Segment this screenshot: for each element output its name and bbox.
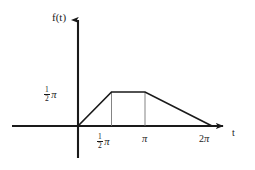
- pi-symbol: π: [51, 89, 56, 100]
- y-axis-label: f(t): [52, 12, 66, 23]
- x-tick-label-pi: π: [142, 134, 147, 145]
- fraction-one-half: 1 2: [97, 133, 103, 149]
- plot-area: [0, 0, 255, 170]
- fraction-one-half: 1 2: [44, 86, 50, 102]
- pi-symbol: π: [142, 133, 147, 144]
- pi-symbol: π: [204, 133, 209, 144]
- fraction-numerator: 1: [44, 86, 50, 94]
- x-tick-label-two-pi: 2π: [199, 134, 209, 145]
- fraction-denominator: 2: [97, 141, 103, 150]
- x-axis-label: t: [232, 128, 235, 138]
- fraction-numerator: 1: [97, 133, 103, 141]
- x-tick-label-half-pi: 1 2 π: [97, 133, 110, 149]
- pi-symbol: π: [104, 136, 109, 147]
- figure-container: f(t) t 1 2 π 1 2 π π 2π: [0, 0, 255, 170]
- y-tick-label-half-pi: 1 2 π: [44, 86, 57, 102]
- fraction-denominator: 2: [44, 94, 50, 103]
